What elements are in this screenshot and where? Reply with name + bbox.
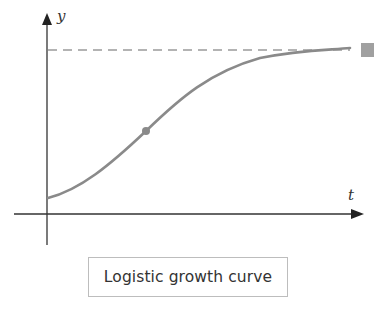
logistic-curve: [48, 48, 350, 198]
inflection-point: [142, 127, 150, 135]
chart-caption: Logistic growth curve: [88, 257, 288, 297]
y-axis-arrow-icon: [42, 13, 52, 25]
x-axis-label: t: [348, 186, 354, 204]
x-axis-arrow-icon: [351, 209, 364, 219]
caption-text: Logistic growth curve: [104, 268, 272, 286]
y-axis-label: y: [57, 7, 65, 25]
square-marker-icon: [361, 43, 374, 57]
